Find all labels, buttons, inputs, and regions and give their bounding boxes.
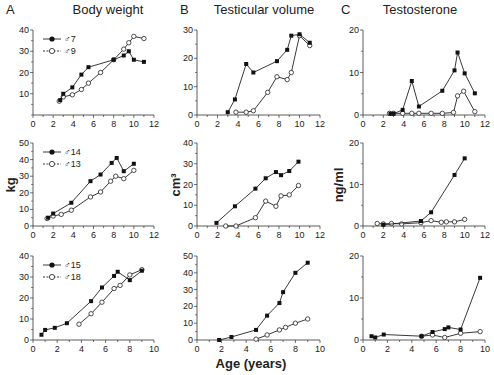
y-tick-label: 10 [349,68,359,78]
x-tick-label: 6 [103,344,108,354]
x-tick-label: 8 [111,119,116,129]
x-tick-label: 2 [381,230,386,240]
data-point-filled [381,223,385,227]
data-point-filled [244,62,248,66]
data-point-open [254,337,258,341]
data-point-filled [459,328,463,332]
x-tick-label: 4 [401,230,406,240]
data-point-filled [443,327,447,331]
x-tick-label: 2 [219,344,224,354]
data-point-filled [132,58,136,62]
data-point-filled [253,187,257,191]
x-tick-label: 0 [360,344,365,354]
x-tick-label: 6 [421,119,426,129]
data-point-open [429,111,433,115]
data-point-open [439,220,443,224]
data-point-filled [440,89,444,93]
x-tick-label: 6 [434,344,439,354]
x-tick-label: 2 [215,119,220,129]
data-point-open [429,218,433,222]
data-point-open [100,300,104,304]
data-point-open [128,273,132,277]
data-point-open [458,331,462,335]
data-point-open [279,194,283,198]
data-point-filled [279,173,283,177]
data-point-open [293,321,297,325]
legend-marker-filled [49,262,54,267]
data-point-open [263,199,267,203]
y-tick-label: 0 [354,110,359,120]
series-male-14 [46,156,136,220]
y-tick-label: 30 [183,159,193,169]
x-tick-label: 12 [149,230,159,240]
x-tick-label: 0 [30,230,35,240]
panel-letter-b: B [180,2,189,17]
figure-canvas: A Body weight B Testicular volume C Test… [0,0,494,375]
data-point-open [296,183,300,187]
data-point-open [266,90,270,94]
y-tick-label: 40 [183,268,193,278]
data-point-filled [453,68,457,72]
y-tick-label: 30 [183,285,193,295]
y-tick-label: 10 [349,293,359,303]
data-point-open [86,81,90,85]
data-point-filled [142,60,146,64]
plot-A-row1: 02468101210203040♂7♂9 [19,25,159,129]
x-tick-label: 12 [480,119,490,129]
x-tick-label: 10 [315,344,325,354]
x-tick-label: 8 [458,344,463,354]
data-point-filled [373,335,377,339]
data-point-open [122,47,126,51]
plot-B-row3: 024681001020304050 [183,251,325,354]
data-point-open [275,75,279,79]
data-point-open [112,286,116,290]
data-point-filled [370,334,374,338]
data-point-filled [392,112,396,116]
data-point-open [473,109,477,113]
data-point-open [440,111,444,115]
x-tick-label: 8 [293,344,298,354]
y-tick-label: 30 [183,25,193,35]
x-tick-label: 6 [256,230,261,240]
x-tick-label: 10 [129,230,139,240]
data-point-filled [115,156,119,160]
y-tick-label: 20 [349,251,359,261]
x-tick-label: 4 [235,230,240,240]
data-point-filled [410,79,414,83]
data-point-filled [275,59,279,63]
data-point-filled [127,49,131,53]
legend-label: ♂18 [64,272,81,282]
data-point-filled [308,41,312,45]
y-tick-label: 40 [183,138,193,148]
data-point-open [461,89,465,93]
series-male-18 [419,329,482,339]
y-tick-label: 30 [19,171,29,181]
data-point-open [285,77,289,81]
data-point-filled [51,212,55,216]
data-point-open [98,70,102,74]
x-tick-label: 10 [129,119,139,129]
data-point-filled [89,299,93,303]
panel-title-testosterone: Testosterone [383,2,457,17]
data-point-open [410,111,414,115]
x-tick-label: 6 [256,119,261,129]
data-point-open [287,193,291,197]
data-point-filled [478,276,482,280]
ylabel-cm3: cm³ [168,173,183,197]
series-male-14 [381,156,466,226]
data-point-filled [274,170,278,174]
data-point-open [451,110,455,114]
x-tick-label: 4 [71,119,76,129]
data-point-filled [99,173,103,177]
data-point-filled [70,85,74,89]
legend-marker-open [49,48,54,53]
x-tick-label: 2 [51,119,56,129]
data-point-filled [233,97,237,101]
plot-C-row1: 02468101201020 [349,25,490,129]
data-point-filled [277,301,281,305]
x-tick-label: 0 [194,230,199,240]
y-tick-label: 10 [183,82,193,92]
data-point-open [244,110,248,114]
data-point-filled [293,271,297,275]
data-point-filled [233,204,237,208]
